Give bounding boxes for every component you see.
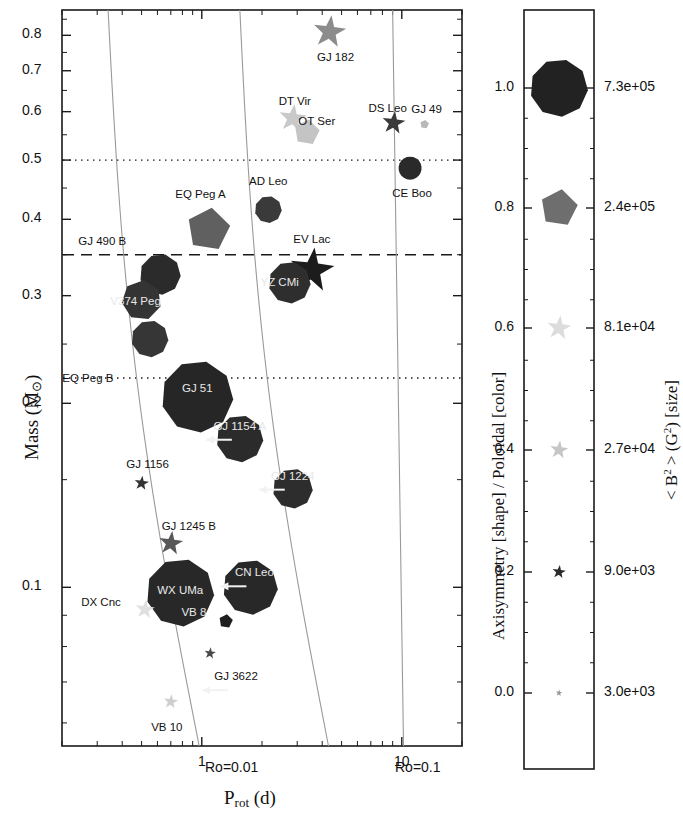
point-label-gj-1154-a: GJ 1154 A bbox=[213, 421, 266, 433]
data-point-gj-182[interactable] bbox=[314, 15, 346, 47]
yaxis-tick-label: 0.8 bbox=[22, 26, 41, 40]
symbol-nonagon bbox=[132, 321, 168, 357]
symbol-star bbox=[205, 647, 216, 658]
point-label-cn-leo: CN Leo bbox=[235, 568, 274, 580]
point-label-gj-182: GJ 182 bbox=[317, 52, 354, 64]
legend-field-label-5: 3.0e+03 bbox=[604, 684, 655, 698]
point-label-eq-peg-b: EQ Peg B bbox=[62, 373, 113, 385]
point-label-v374-peg: V374 Peg bbox=[110, 296, 161, 308]
upper-limit-arrowhead bbox=[202, 686, 210, 694]
legend-axisymmetry-label-5: 0.0 bbox=[495, 684, 514, 698]
point-label-gj-1156: GJ 1156 bbox=[126, 459, 169, 471]
upper-limit-arrowhead bbox=[206, 436, 214, 444]
legend-symbol-2 bbox=[548, 316, 572, 339]
point-label-vb-10: VB 10 bbox=[151, 722, 182, 734]
symbol-pentagon bbox=[421, 120, 429, 128]
point-label-ot-ser: OT Ser bbox=[298, 117, 335, 129]
point-label-dt-vir: DT Vir bbox=[279, 97, 311, 109]
xaxis-title: Prot (d) bbox=[224, 788, 276, 809]
symbol-star bbox=[159, 531, 183, 554]
legend-symbol-5 bbox=[556, 690, 563, 697]
legend-frame bbox=[524, 10, 594, 769]
legend-symbol-3 bbox=[550, 441, 568, 459]
legend-field-label-2: 8.1e+04 bbox=[604, 319, 655, 333]
point-label-gj-49: GJ 49 bbox=[411, 105, 442, 117]
legend-right-b: B bbox=[662, 475, 681, 486]
data-point-eq-peg-a[interactable] bbox=[189, 208, 230, 249]
point-label-wx-uma: WX UMa bbox=[157, 585, 203, 597]
xaxis-title-main: P bbox=[224, 787, 235, 808]
point-label-ev-lac: EV Lac bbox=[293, 235, 330, 247]
legend-right-axis-title: < B2 > (G2) [size] bbox=[662, 380, 680, 500]
legend-right-unit-sup: 2 bbox=[661, 428, 673, 434]
point-label-vb-8: VB 8 bbox=[181, 607, 206, 619]
yaxis-tick-label: 0.6 bbox=[22, 103, 41, 117]
yaxis-title-sub: ⊙ bbox=[29, 381, 44, 392]
point-label-ad-leo: AD Leo bbox=[249, 176, 287, 188]
point-label-eq-peg-a: EQ Peg A bbox=[175, 190, 226, 202]
point-label-dx-cnc: DX Cnc bbox=[81, 598, 121, 610]
symbol-nonagon bbox=[255, 196, 281, 223]
legend-right-lt: < bbox=[662, 490, 681, 500]
legend-field-label-0: 7.3e+05 bbox=[604, 79, 655, 93]
point-label-yz-cmi: YZ CMi bbox=[260, 277, 298, 289]
data-point-gj-1245-b[interactable] bbox=[159, 531, 183, 554]
yaxis-title-main: Mass (M bbox=[21, 392, 42, 460]
legend-field-label-4: 9.0e+03 bbox=[604, 563, 655, 577]
rossby-label-1: Ro=0.1 bbox=[395, 760, 441, 774]
data-point-gj-49[interactable] bbox=[421, 120, 429, 128]
legend-right-sup: 2 bbox=[661, 469, 673, 475]
yaxis-title: Mass (M⊙) bbox=[22, 375, 43, 460]
rossby-label-0: Ro=0.01 bbox=[205, 760, 258, 774]
symbol-circle bbox=[399, 157, 422, 180]
point-label-ce-boo: CE Boo bbox=[392, 188, 432, 200]
xaxis-title-unit: (d) bbox=[254, 787, 276, 808]
legend-axisymmetry-label-2: 0.6 bbox=[495, 319, 514, 333]
legend-left-axis-title: Axisymmetry [shape] / Poloidal [color] bbox=[490, 372, 507, 640]
yaxis-tick-label: 0.4 bbox=[22, 210, 41, 224]
yaxis-tick-label: 0.3 bbox=[22, 287, 41, 301]
legend-axisymmetry-label-1: 0.8 bbox=[495, 199, 514, 213]
point-label-gj-1224: GJ 1224 bbox=[271, 471, 314, 483]
data-point-gj-1156[interactable] bbox=[135, 476, 149, 490]
legend-right-gt: > bbox=[662, 455, 681, 465]
symbol-star bbox=[135, 476, 149, 490]
legend-symbol-0 bbox=[531, 60, 588, 117]
data-point-vb-8[interactable] bbox=[220, 614, 233, 627]
upper-limit-arrowhead bbox=[259, 486, 267, 494]
figure-root: 0.80.70.60.50.40.30.20.1110GJ 182DT VirO… bbox=[0, 0, 683, 825]
plot-graphics bbox=[0, 0, 683, 825]
yaxis-tick-label: 0.5 bbox=[22, 151, 41, 165]
symbol-star bbox=[164, 694, 178, 708]
legend-field-label-3: 2.7e+04 bbox=[604, 441, 655, 455]
data-point-eq-peg-b[interactable] bbox=[132, 321, 168, 357]
legend-right-unit-close: ) bbox=[662, 422, 681, 428]
symbol-pentagon bbox=[220, 614, 233, 627]
legend-left-axis-label: Axisymmetry [shape] / Poloidal [color] bbox=[489, 372, 508, 640]
legend-axisymmetry-label-0: 1.0 bbox=[495, 79, 514, 93]
yaxis-tick-label: 0.1 bbox=[22, 578, 41, 592]
data-point-ce-boo[interactable] bbox=[399, 157, 422, 180]
legend-symbol-4 bbox=[553, 565, 566, 578]
symbol-pentagon bbox=[189, 208, 230, 249]
point-label-gj-3622: GJ 3622 bbox=[214, 672, 257, 684]
xaxis-title-sub: rot bbox=[235, 795, 249, 810]
symbol-star bbox=[314, 15, 346, 47]
data-point-ad-leo[interactable] bbox=[255, 196, 281, 223]
point-label-gj-51: GJ 51 bbox=[182, 383, 213, 395]
data-point-gj-3622[interactable] bbox=[205, 647, 216, 658]
point-label-gj-490-b: GJ 490 B bbox=[78, 237, 126, 249]
point-label-ds-leo: DS Leo bbox=[368, 103, 406, 115]
yaxis-tick-label: 0.7 bbox=[22, 62, 41, 76]
legend-symbol-1 bbox=[542, 189, 578, 225]
point-label-gj-1245-b: GJ 1245 B bbox=[162, 522, 216, 534]
legend-right-tag: [size] bbox=[662, 380, 681, 418]
legend-field-label-1: 2.4e+05 bbox=[604, 199, 655, 213]
legend-right-unit: (G bbox=[662, 433, 681, 451]
yaxis-title-close: ) bbox=[21, 375, 42, 381]
data-point-vb-10[interactable] bbox=[164, 694, 178, 708]
